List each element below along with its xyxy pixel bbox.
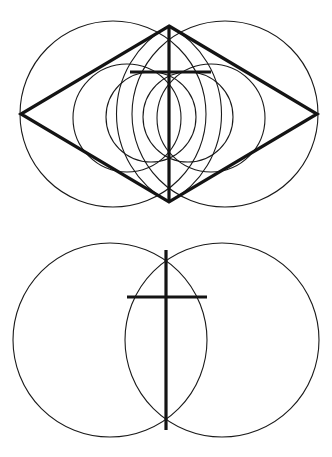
- diagram-canvas: [0, 0, 332, 457]
- geometry-svg: [0, 0, 332, 457]
